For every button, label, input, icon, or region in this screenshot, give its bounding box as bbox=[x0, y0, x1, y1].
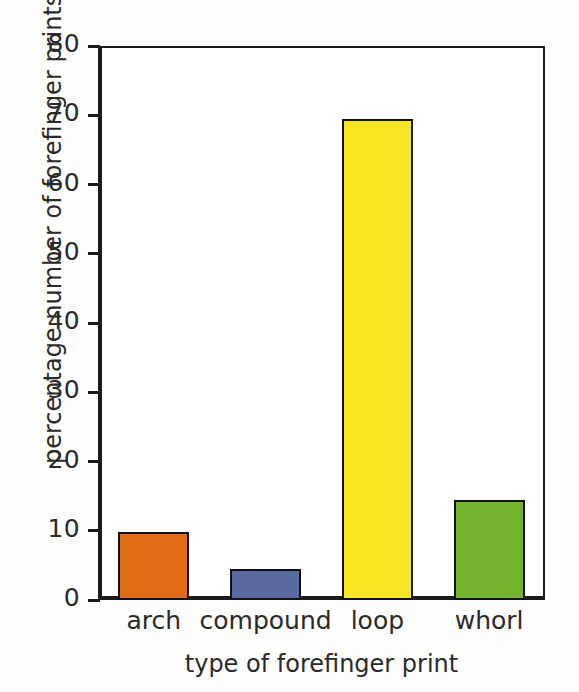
x-axis-title: type of forefinger print bbox=[98, 650, 545, 678]
bar-loop bbox=[342, 119, 413, 600]
x-axis-tick-label-whorl: whorl bbox=[399, 606, 579, 635]
bar-arch bbox=[118, 532, 189, 600]
y-axis-tick-label: 10 bbox=[36, 514, 80, 543]
bar-chart-figure: 01020304050607080 percentage number of f… bbox=[0, 0, 579, 692]
x-axis-tick-labels: archcompoundloopwhorl bbox=[98, 606, 545, 646]
bar-compound bbox=[230, 569, 301, 600]
bars-layer bbox=[98, 46, 545, 600]
y-axis-title: percentage number of forefinger prints bbox=[39, 164, 67, 464]
bar-whorl bbox=[454, 500, 525, 600]
